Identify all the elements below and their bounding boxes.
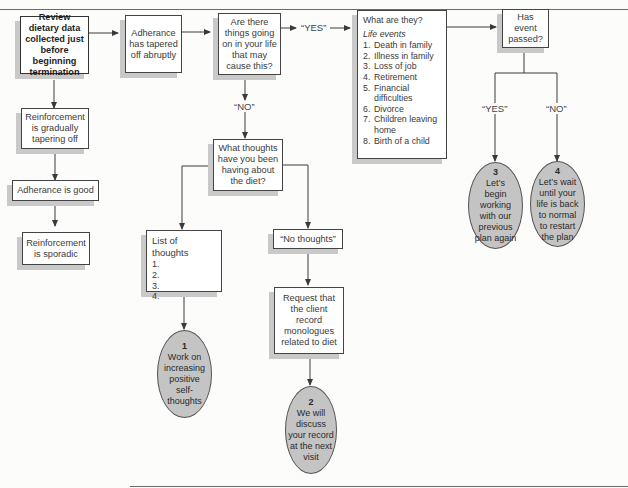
outcome-text: We will discuss your record at the next … bbox=[286, 408, 336, 463]
thought-item: 2. bbox=[152, 270, 160, 281]
life-events-box: What are they? Life events 1.Death in fa… bbox=[357, 10, 447, 159]
life-event-item: 6.Divorce bbox=[363, 104, 441, 115]
life-event-item: 8.Birth of a child bbox=[363, 136, 441, 147]
start-review-box: Review dietary data collected just befor… bbox=[20, 16, 89, 74]
outcome-text: Let’s begin working with our previous pl… bbox=[469, 178, 522, 244]
outcome-oval-2: 2 We will discuss your record at the nex… bbox=[285, 386, 337, 474]
adherence-abrupt-text: Adherance has tapered off abruptly bbox=[129, 28, 178, 61]
life-events-title: What are they? bbox=[363, 15, 423, 26]
no-thoughts-text: “No thoughts” bbox=[280, 234, 336, 245]
life-events-list: 1.Death in family 2.Illness in family 3.… bbox=[363, 40, 441, 146]
request-monologues-text: Request that the client record monologue… bbox=[278, 293, 340, 348]
event-passed-text: Has event passed? bbox=[506, 12, 545, 45]
outcome-number: 4 bbox=[555, 166, 560, 177]
life-event-item: 3.Loss of job bbox=[363, 61, 441, 72]
outcome-oval-4: 4 Let’s wait until your life is back to … bbox=[530, 161, 585, 247]
thought-item: 3. bbox=[152, 281, 160, 292]
thought-item: 4. bbox=[152, 291, 160, 302]
yes-label-event: “YES” bbox=[481, 103, 508, 114]
adherence-abrupt-box: Adherance has tapered off abruptly bbox=[125, 15, 182, 73]
life-event-item: 2.Illness in family bbox=[363, 51, 441, 62]
life-question-text: Are there things going on in your life t… bbox=[222, 17, 277, 72]
no-thoughts-box: “No thoughts” bbox=[273, 229, 343, 249]
list-of-thoughts-title: List of thoughts bbox=[152, 235, 216, 259]
outcome-oval-3: 3 Let’s begin working with our previous … bbox=[468, 162, 523, 249]
reinforcement-sporadic-text: Reinforcement is sporadic bbox=[26, 238, 86, 260]
life-event-item: 7.Children leaving home bbox=[363, 114, 441, 135]
outcome-number: 1 bbox=[182, 341, 187, 352]
start-review-text: Review dietary data collected just befor… bbox=[24, 12, 85, 78]
life-event-item: 4.Retirement bbox=[363, 72, 441, 83]
adherence-good-box: Adherance is good bbox=[12, 180, 99, 201]
outcome-text: Let’s wait until your life is back to no… bbox=[531, 177, 584, 243]
life-question-box: Are there things going on in your life t… bbox=[218, 13, 281, 75]
list-of-thoughts-box: List of thoughts 1. 2. 3. 4. bbox=[146, 230, 222, 292]
life-events-subtitle: Life events bbox=[363, 29, 406, 40]
outcome-number: 3 bbox=[493, 167, 498, 178]
yes-label-life: “YES” bbox=[300, 22, 327, 33]
adherence-good-text: Adherance is good bbox=[17, 185, 94, 196]
request-monologues-box: Request that the client record monologue… bbox=[274, 287, 344, 354]
thoughts-question-box: What thoughts have you been having about… bbox=[213, 139, 283, 191]
outcome-text: Work on increasing positive self-thought… bbox=[158, 352, 211, 407]
outcome-number: 2 bbox=[308, 397, 313, 408]
event-passed-box: Has event passed? bbox=[502, 9, 549, 48]
life-event-item: 1.Death in family bbox=[363, 40, 441, 51]
outcome-oval-1: 1 Work on increasing positive self-thoug… bbox=[157, 330, 212, 418]
reinforcement-sporadic-box: Reinforcement is sporadic bbox=[22, 232, 90, 265]
no-label-life: “NO” bbox=[233, 101, 256, 112]
thoughts-question-text: What thoughts have you been having about… bbox=[217, 143, 279, 187]
gradual-taper-text: Reinforcement is gradually tapering off bbox=[25, 112, 85, 145]
thought-item: 1. bbox=[152, 259, 160, 270]
gradual-taper-box: Reinforcement is gradually tapering off bbox=[21, 108, 89, 149]
no-label-event: “NO” bbox=[545, 103, 568, 114]
life-event-item: 5.Financial difficulties bbox=[363, 83, 441, 104]
